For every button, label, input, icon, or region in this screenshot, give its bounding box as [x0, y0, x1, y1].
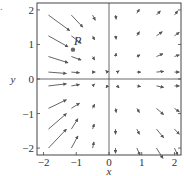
svg-text:0: 0 — [29, 73, 35, 85]
svg-text:2: 2 — [172, 156, 178, 168]
svg-text:−2: −2 — [22, 142, 34, 154]
svg-text:−2: −2 — [38, 156, 50, 168]
vector-field-plot: −2−1012−2−1012 P x y — [0, 0, 184, 176]
svg-text:1: 1 — [29, 38, 35, 50]
svg-text:−1: −1 — [22, 108, 34, 120]
svg-text:P: P — [73, 34, 82, 48]
field-arrows — [48, 9, 179, 158]
x-axis-label: x — [106, 165, 112, 176]
svg-text:2: 2 — [29, 4, 35, 16]
svg-text:1: 1 — [139, 156, 145, 168]
y-axis-label: y — [10, 73, 16, 85]
svg-text:−1: −1 — [70, 156, 82, 168]
